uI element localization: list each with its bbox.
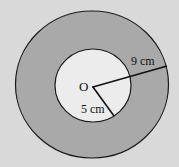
annulus-diagram: O 9 cm 5 cm xyxy=(0,0,179,167)
outer-radius-label: 9 cm xyxy=(131,54,155,68)
inner-radius-label: 5 cm xyxy=(81,102,105,116)
center-label: O xyxy=(79,79,88,94)
center-point xyxy=(92,86,94,88)
